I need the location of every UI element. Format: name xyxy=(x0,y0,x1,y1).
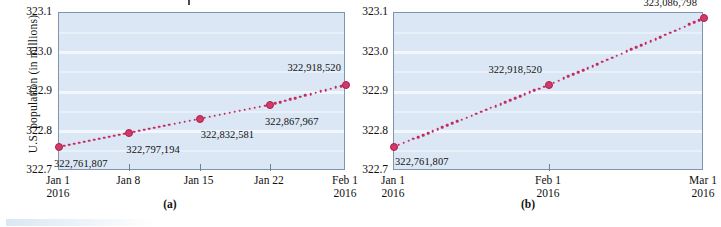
series-dot xyxy=(557,79,560,82)
series-dot xyxy=(68,143,71,146)
data-point-value-label: 323,086,798 xyxy=(643,0,697,8)
series-dot xyxy=(188,119,191,122)
series-dot xyxy=(649,40,652,43)
series-dot xyxy=(490,107,493,110)
series-dot xyxy=(113,134,116,137)
data-point-value-label: 322,832,581 xyxy=(201,129,255,140)
series-dot xyxy=(264,104,267,107)
gridline xyxy=(394,130,702,133)
series-dot xyxy=(88,139,91,142)
series-dot xyxy=(601,61,604,64)
plot-area-b xyxy=(393,12,703,170)
series-dot xyxy=(402,141,405,144)
series-dot xyxy=(289,98,292,101)
y-tick-label: 322.9 xyxy=(6,84,52,96)
x-tick-label: Jan 8 xyxy=(95,174,161,187)
series-dot xyxy=(654,38,657,41)
series-dot xyxy=(58,145,61,148)
x-tick-label: Jan 12016 xyxy=(360,174,426,199)
series-dot xyxy=(153,126,156,129)
series-dot xyxy=(93,138,96,141)
series-dot xyxy=(407,139,410,142)
series-dot xyxy=(163,124,166,127)
x-tick-label-date: Jan 1 xyxy=(381,174,405,186)
series-dot xyxy=(441,126,444,129)
series-dot xyxy=(596,63,599,66)
series-dot xyxy=(572,73,575,76)
series-dot xyxy=(63,144,66,147)
series-dot xyxy=(688,23,691,26)
series-dot xyxy=(304,94,307,97)
gridline-minor xyxy=(394,150,702,152)
series-dot xyxy=(417,136,420,139)
data-point-value-label: 322,918,520 xyxy=(287,62,341,73)
y-tick-label: 323.0 xyxy=(342,45,388,57)
series-dot xyxy=(693,21,696,24)
series-dot xyxy=(158,125,161,128)
series-dot xyxy=(519,95,522,98)
series-dot xyxy=(279,101,282,104)
series-dot xyxy=(335,86,338,89)
series-dot xyxy=(193,118,196,121)
gridline-minor xyxy=(394,111,702,113)
series-dot xyxy=(203,116,206,119)
series-dot xyxy=(456,120,459,123)
series-dot xyxy=(103,136,106,139)
series-dot xyxy=(168,123,171,126)
x-tick-label-date: Jan 1 xyxy=(46,174,70,186)
series-dot xyxy=(83,140,86,143)
series-dot xyxy=(553,81,556,84)
data-point-value-label: 322,797,194 xyxy=(126,144,180,155)
series-dot xyxy=(198,117,201,120)
series-dot xyxy=(178,121,181,124)
series-dot xyxy=(678,27,681,30)
x-tick-mark xyxy=(549,164,550,171)
x-tick-mark xyxy=(129,164,130,171)
chart-panel-a: U.S. population (in millions) 322.7322.8… xyxy=(0,0,352,227)
x-tick-label: Feb 12016 xyxy=(515,174,581,199)
x-tick-mark xyxy=(200,164,201,171)
series-dot xyxy=(118,133,121,136)
series-dot xyxy=(461,118,464,121)
series-dot xyxy=(567,75,570,78)
series-dot xyxy=(398,143,401,146)
series-dot xyxy=(591,65,594,68)
series-dot xyxy=(606,58,609,61)
series-dot xyxy=(664,34,667,37)
series-dot xyxy=(218,113,221,116)
series-dot xyxy=(494,105,497,108)
series-dot xyxy=(616,54,619,57)
gridline-minor xyxy=(59,150,344,152)
series-dot xyxy=(198,117,201,120)
x-tick-label-date: Jan 22 xyxy=(254,174,284,186)
series-dot xyxy=(274,102,277,105)
y-tick-label: 323.1 xyxy=(6,5,52,17)
series-dot xyxy=(259,105,262,108)
series-dot xyxy=(422,134,425,137)
data-point-value-label: 322,761,807 xyxy=(54,158,108,169)
x-tick-label: Jan 12016 xyxy=(25,174,91,199)
y-tick-label: 323.0 xyxy=(6,45,52,57)
series-dot xyxy=(470,114,473,117)
chart-panel-b: 322.7322.8322.9323.0323.1 Jan 12016Feb 1… xyxy=(352,0,704,227)
y-tick-label: 322.8 xyxy=(342,124,388,136)
series-dot xyxy=(284,99,287,102)
series-dot xyxy=(698,19,701,22)
data-point-marker xyxy=(196,115,204,123)
gridline-minor xyxy=(59,32,344,34)
series-dot xyxy=(451,122,454,125)
series-dot xyxy=(504,101,507,104)
series-dot xyxy=(269,103,272,106)
panel-caption-a: (a) xyxy=(0,198,346,210)
x-tick-label: Jan 22 xyxy=(236,174,302,187)
data-point-value-label: 322,761,807 xyxy=(395,156,449,167)
series-dot xyxy=(475,112,478,115)
panel-caption-b: (b) xyxy=(352,198,704,210)
series-dot xyxy=(269,103,272,106)
x-tick-label-date: Jan 15 xyxy=(184,174,214,186)
gridline-minor xyxy=(394,71,702,73)
gridline-minor xyxy=(394,32,702,34)
series-dot xyxy=(393,145,396,148)
gridline-minor xyxy=(59,111,344,113)
series-dot xyxy=(514,97,517,100)
